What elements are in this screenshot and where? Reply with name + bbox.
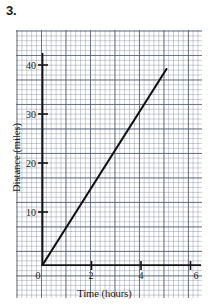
x-axis-title: Time (hours) (0, 288, 209, 299)
data-line-distance-travelled (43, 69, 167, 265)
x-tick-label-0: 0 (36, 270, 41, 281)
worksheet-page: 3. 40 30 20 10 0 2 4 6 Time (hours (0, 0, 209, 307)
y-axis-title: Distance (miles) (11, 103, 22, 213)
x-tick-label-4: 4 (139, 270, 144, 281)
x-tick-label-2: 2 (89, 270, 94, 281)
plot-overlay (0, 0, 209, 307)
y-tick-label-40: 40 (18, 60, 36, 71)
x-tick-label-6: 6 (194, 270, 199, 281)
